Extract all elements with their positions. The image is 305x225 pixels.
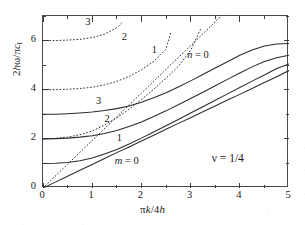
grain-dot [104, 11, 105, 12]
grain-dot [89, 3, 90, 4]
x-axis-label-text: πk/4h [140, 203, 165, 215]
curve-n-3 [43, 23, 122, 41]
curve-label-dotted: n = 0 [187, 50, 209, 61]
grain-dot [45, 6, 46, 7]
grain-dot [27, 163, 28, 164]
curve-label-solid: 1 [117, 133, 122, 144]
plot-canvas [43, 16, 289, 188]
annotation-mode-symbol: n [187, 49, 192, 60]
grain-dot [274, 197, 275, 198]
grain-dot [40, 51, 41, 52]
grain-dot [30, 49, 31, 50]
grain-dot [22, 152, 23, 153]
grain-dot [6, 43, 7, 44]
grain-dot [139, 8, 140, 9]
x-tick-label: 1 [79, 189, 103, 200]
grain-dot [292, 148, 293, 149]
grain-dot [188, 0, 189, 1]
curve-m-1 [43, 64, 289, 164]
tick-marks [43, 16, 289, 188]
y-axis-label-text: 2hω/πct [10, 42, 22, 76]
grain-dot [156, 190, 157, 191]
grain-dot [0, 56, 1, 57]
grain-dot [4, 92, 5, 93]
curve-label-solid: 3 [96, 96, 101, 107]
grain-dot [3, 99, 4, 100]
grain-dot [268, 216, 269, 217]
grain-dot [121, 2, 122, 3]
grain-dot [8, 11, 9, 12]
grain-dot [167, 8, 168, 9]
annotation-mode-symbol: m [115, 155, 123, 166]
y-tick-label: 0 [20, 180, 36, 191]
grain-dot [33, 63, 34, 64]
grain-dot [125, 9, 126, 10]
grain-dot [32, 116, 33, 117]
grain-dot [83, 224, 84, 225]
grain-dot [33, 223, 34, 224]
curve-label-dotted: 2 [122, 32, 127, 43]
grain-dot [302, 32, 303, 33]
grain-dot [0, 95, 1, 96]
grain-dot [117, 7, 118, 8]
x-tick-label: 3 [178, 189, 202, 200]
x-axis-label: πk/4h [0, 203, 305, 215]
grain-dot [259, 190, 260, 191]
grain-dot [304, 170, 305, 171]
y-tick-label: 2 [20, 131, 36, 142]
figure-dispersion-plot: 012345 0246 πk/4h 2hω/πct n = 0123m = 01… [0, 0, 305, 225]
grain-dot [37, 111, 38, 112]
grain-dot [165, 222, 166, 223]
grain-dot [184, 8, 185, 9]
curve-n-1 [43, 30, 200, 139]
curve-n-2 [43, 32, 171, 90]
grain-dot [220, 219, 221, 220]
curve-label-dotted: 1 [152, 45, 157, 56]
grain-dot [92, 5, 93, 6]
grain-dot [59, 216, 60, 217]
grain-dot [23, 224, 24, 225]
grain-dot [30, 20, 31, 21]
grain-dot [29, 61, 30, 62]
grain-dot [32, 24, 33, 25]
x-tick-label: 4 [227, 189, 251, 200]
grain-dot [291, 3, 292, 4]
grain-dot [19, 0, 20, 1]
poisson-ratio-annotation: ν = 1/4 [212, 152, 244, 164]
grain-dot [295, 108, 296, 109]
curve-label-solid: 2 [104, 114, 109, 125]
x-tick-label: 5 [276, 189, 300, 200]
grain-dot [237, 222, 238, 223]
x-tick-label: 2 [128, 189, 152, 200]
grain-dot [304, 194, 305, 195]
grain-dot [192, 221, 193, 222]
grain-dot [19, 222, 20, 223]
grain-dot [301, 217, 302, 218]
grain-dot [179, 12, 180, 13]
grain-dot [155, 221, 156, 222]
grain-dot [35, 72, 36, 73]
curve-m-3 [43, 44, 289, 115]
grain-dot [1, 7, 2, 8]
grain-dot [303, 13, 304, 14]
curve-label-dotted: 3 [85, 17, 90, 28]
curve-m-0 [43, 71, 289, 188]
grain-dot [20, 172, 21, 173]
grain-dot [111, 221, 112, 222]
plot-frame [42, 15, 288, 187]
grain-dot [40, 145, 41, 146]
grain-dot [62, 201, 63, 202]
grain-dot [299, 160, 300, 161]
curves [43, 16, 289, 188]
grain-dot [290, 116, 291, 117]
grain-dot [137, 221, 138, 222]
curve-label-solid: m = 0 [115, 156, 139, 167]
y-axis-label: 2hω/πct [10, 4, 24, 114]
grain-dot [3, 38, 4, 39]
grain-dot [162, 222, 163, 223]
grain-dot [304, 148, 305, 149]
grain-dot [207, 7, 208, 8]
